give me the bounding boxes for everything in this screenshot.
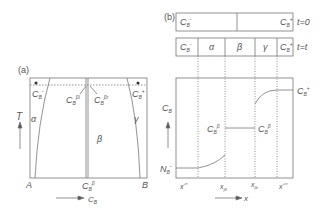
diffusion-diagram: (a) CB- CB+ CBβl CBβr T α β γ A B CBβ CB… [0,0,331,213]
svg-text:T: T [16,111,23,122]
svg-text:CB-: CB- [180,41,192,53]
svg-text:CBβ: CBβ [207,123,220,135]
svg-text:CB+: CB+ [280,16,293,28]
svg-text:CB-: CB- [180,16,192,28]
svg-text:CB+: CB+ [132,88,145,100]
panel-a-label: (a) [18,65,29,75]
svg-text:CB: CB [162,103,173,114]
svg-text:CBβl: CBβl [66,94,81,106]
svg-text:t=t: t=t [297,42,308,52]
svg-text:CB+: CB+ [280,41,293,53]
svg-text:CBβ: CBβ [82,180,95,192]
svg-text:xβl: xβl [219,183,227,192]
panel-b-label: (b) [164,12,175,22]
svg-text:CB: CB [88,195,98,205]
svg-text:β: β [236,42,242,52]
svg-text:γ: γ [263,42,268,52]
svg-text:γ: γ [134,114,139,124]
svg-text:α: α [31,114,37,124]
svg-text:t=0: t=0 [297,17,310,27]
svg-text:x: x [243,194,249,203]
svg-text:CB+: CB+ [297,85,310,97]
svg-text:CB-: CB- [32,88,44,100]
svg-text:B: B [142,180,148,190]
svg-text:CBβr: CBβr [94,94,109,106]
svg-text:xβr: xβr [250,181,259,190]
svg-text:β: β [96,134,102,144]
svg-text:CBβ: CBβ [258,123,271,135]
svg-text:A: A [25,180,32,190]
svg-text:x-∞: x-∞ [179,181,188,190]
svg-text:α: α [209,42,215,52]
svg-text:NB-: NB- [160,163,172,175]
svg-text:x+∞: x+∞ [278,181,288,190]
